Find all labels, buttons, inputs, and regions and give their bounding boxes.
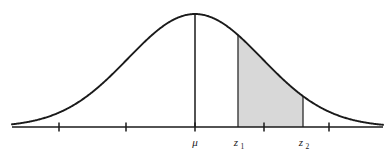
shaded-area-between-z1-and-z2 <box>238 35 303 127</box>
z1-label: z <box>233 136 239 148</box>
z2-label-group: z 2 <box>298 136 310 151</box>
z2-label-subscript: 2 <box>306 142 310 151</box>
z1-label-group: z 1 <box>233 136 245 151</box>
figure-canvas: μ z 1 z 2 <box>0 0 390 160</box>
mean-label: μ <box>191 136 198 148</box>
z1-label-subscript: 1 <box>241 142 245 151</box>
z2-label: z <box>298 136 304 148</box>
normal-distribution-curve <box>12 14 383 125</box>
normal-distribution-figure: μ z 1 z 2 <box>0 0 390 160</box>
mean-label-group: μ <box>191 136 198 148</box>
